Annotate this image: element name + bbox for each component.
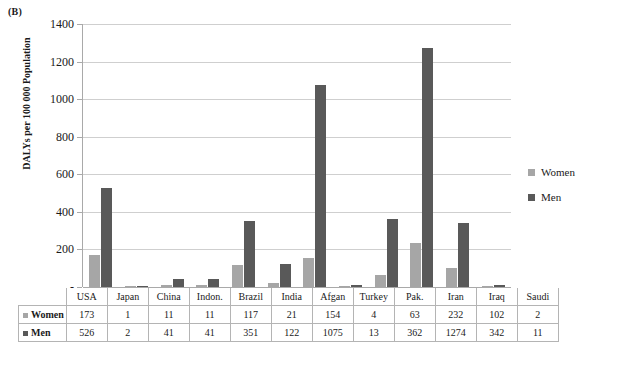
bar-group (333, 24, 369, 287)
bar-women-saudi (482, 286, 493, 287)
legend-label: Men (541, 191, 561, 203)
chart-figure: (B) DALYs per 100 000 Population -200400… (0, 0, 625, 366)
bar-women-turkey (339, 286, 350, 287)
data-table: USAJapanChinaIndon.BrazilIndiaAfganTurke… (18, 288, 559, 342)
bar-group (368, 24, 404, 287)
bar-group (154, 24, 190, 287)
bar-group (119, 24, 155, 287)
table-cell: 1274 (435, 324, 476, 342)
y-tick-label-800: 800 (56, 129, 74, 144)
bar-women-japan (125, 286, 136, 287)
table-cell: 351 (230, 324, 271, 342)
y-tick-label-200: 200 (56, 242, 74, 257)
table-swatch-icon (23, 313, 28, 318)
table-column-header: Japan (107, 288, 148, 306)
table-cell: 1075 (312, 324, 353, 342)
bar-group (226, 24, 262, 287)
table-cell: 13 (353, 324, 394, 342)
legend-swatch-icon (528, 194, 535, 201)
bar-group (475, 24, 511, 287)
table-column-header: Pak. (394, 288, 435, 306)
table-cell: 232 (435, 306, 476, 324)
table-cell: 102 (476, 306, 517, 324)
bar-men-indon (208, 279, 219, 287)
table-cell: 11 (517, 324, 558, 342)
table-column-header: Afgan (312, 288, 353, 306)
table-column-header: Brazil (230, 288, 271, 306)
bar-women-iraq (446, 268, 457, 287)
table-cell: 63 (394, 306, 435, 324)
table-cell: 526 (66, 324, 107, 342)
table-cell: 2 (517, 306, 558, 324)
bar-men-turkey (351, 285, 362, 287)
bar-men-india (280, 264, 291, 287)
table-swatch-icon (23, 331, 28, 336)
y-axis-ticks: -200400600800100012001400 (0, 0, 82, 300)
table-row: Women17311111117211544632321022 (19, 306, 559, 324)
plot-area (82, 24, 510, 287)
bar-women-indon (196, 285, 207, 287)
bar-group (261, 24, 297, 287)
bar-men-japan (137, 286, 148, 287)
bar-group (83, 24, 119, 287)
bar-men-iran (422, 48, 433, 287)
table-column-header: Saudi (517, 288, 558, 306)
bar-series-container (83, 24, 511, 287)
bar-men-china (173, 279, 184, 287)
table-cell: 41 (148, 324, 189, 342)
table-column-header: Turkey (353, 288, 394, 306)
table-column-header: China (148, 288, 189, 306)
table-column-header: USA (66, 288, 107, 306)
bar-men-iraq (458, 223, 469, 287)
bar-group (297, 24, 333, 287)
table-column-header: Iran (435, 288, 476, 306)
bar-men-afgan (315, 85, 326, 287)
table-column-header: India (271, 288, 312, 306)
table-cell: 4 (353, 306, 394, 324)
table-cell: 21 (271, 306, 312, 324)
table-row: Men52624141351122107513362127434211 (19, 324, 559, 342)
table-header-row: USAJapanChinaIndon.BrazilIndiaAfganTurke… (19, 288, 559, 306)
table-cell: 122 (271, 324, 312, 342)
table-corner-cell (19, 288, 67, 306)
table-row-label: Women (31, 309, 64, 320)
table-row-header: Women (19, 306, 67, 324)
y-tick-label-1000: 1000 (50, 92, 74, 107)
bar-group (404, 24, 440, 287)
bar-men-brazil (244, 221, 255, 287)
bar-women-afgan (303, 258, 314, 287)
bar-women-india (268, 283, 279, 287)
bar-group (190, 24, 226, 287)
table-cell: 362 (394, 324, 435, 342)
table-cell: 11 (189, 306, 230, 324)
table-cell: 11 (148, 306, 189, 324)
table-cell: 2 (107, 324, 148, 342)
table-body: Women17311111117211544632321022Men526241… (19, 306, 559, 342)
table-cell: 117 (230, 306, 271, 324)
table-row-label: Men (31, 327, 50, 338)
bar-women-china (161, 285, 172, 287)
table-column-header: Iraq (476, 288, 517, 306)
bar-group (440, 24, 476, 287)
legend-item-men: Men (528, 191, 575, 203)
chart-legend: WomenMen (528, 166, 575, 216)
legend-item-women: Women (528, 166, 575, 178)
y-tick-label-1200: 1200 (50, 54, 74, 69)
table-cell: 41 (189, 324, 230, 342)
bar-women-brazil (232, 265, 243, 287)
table-cell: 154 (312, 306, 353, 324)
y-tick-label-600: 600 (56, 167, 74, 182)
table-cell: 1 (107, 306, 148, 324)
y-tick-label-400: 400 (56, 204, 74, 219)
bar-men-saudi (494, 285, 505, 287)
bar-men-pak (387, 219, 398, 287)
table-row-header: Men (19, 324, 67, 342)
legend-label: Women (541, 166, 575, 178)
table-column-header: Indon. (189, 288, 230, 306)
y-tick-label-1400: 1400 (50, 17, 74, 32)
bar-women-pak (375, 275, 386, 287)
table-cell: 173 (66, 306, 107, 324)
table-header: USAJapanChinaIndon.BrazilIndiaAfganTurke… (19, 288, 559, 306)
table-cell: 342 (476, 324, 517, 342)
legend-swatch-icon (528, 169, 535, 176)
